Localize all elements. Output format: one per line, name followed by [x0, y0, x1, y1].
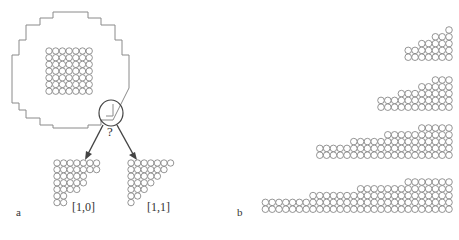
atom-circle	[148, 160, 154, 166]
atom-circle	[391, 186, 398, 193]
atom-circle	[419, 132, 426, 139]
atom-circle	[398, 97, 405, 104]
atom-circle	[371, 199, 378, 206]
atom-circle	[289, 199, 296, 206]
atom-circle	[337, 145, 344, 152]
atom-circle	[432, 152, 439, 159]
atom-circle	[46, 81, 52, 87]
atom-circle	[86, 68, 92, 74]
atom-circle	[323, 199, 330, 206]
atom-circle	[412, 192, 419, 199]
atom-circle	[364, 186, 371, 193]
atom-circle	[412, 152, 419, 159]
atom-circle	[439, 90, 446, 97]
atom-circle	[412, 186, 419, 193]
atom-circle	[398, 138, 405, 145]
atom-circle	[446, 138, 453, 145]
atom-circle	[419, 40, 426, 47]
atom-circle	[330, 145, 337, 152]
step-option-1-0	[54, 160, 100, 206]
atom-circle	[371, 145, 378, 152]
atom-circle	[364, 192, 371, 199]
atom-circle	[79, 81, 85, 87]
atom-circle	[86, 75, 92, 81]
atom-circle	[269, 206, 276, 213]
atom-circle	[54, 166, 60, 172]
atom-circle	[398, 145, 405, 152]
atom-circle	[53, 81, 59, 87]
atom-circle	[391, 97, 398, 104]
magnifier-circle	[99, 100, 123, 126]
atom-circle	[385, 152, 392, 159]
atom-circle	[391, 138, 398, 145]
atom-circle	[364, 138, 371, 145]
atom-circle	[54, 186, 60, 192]
atom-circle	[378, 199, 385, 206]
atom-circle	[54, 180, 60, 186]
atom-circle	[79, 88, 85, 94]
atom-circle	[86, 61, 92, 67]
atom-circle	[74, 186, 80, 192]
atom-circle	[46, 88, 52, 94]
atom-circle	[351, 145, 358, 152]
atom-circle	[439, 145, 446, 152]
atom-circle	[439, 206, 446, 213]
atom-circle	[154, 160, 160, 166]
atom-circle	[432, 192, 439, 199]
atom-circle	[54, 173, 60, 179]
atom-circle	[167, 160, 173, 166]
atom-circle	[405, 54, 412, 61]
atom-circle	[128, 160, 134, 166]
atom-circle	[446, 40, 453, 47]
staircase-1	[405, 27, 452, 61]
atom-circle	[439, 125, 446, 132]
atom-circle	[391, 104, 398, 111]
atom-circle	[60, 173, 66, 179]
atom-circle	[385, 206, 392, 213]
atom-circle	[425, 206, 432, 213]
atom-circle	[60, 160, 66, 166]
atom-circle	[419, 192, 426, 199]
atom-circle	[405, 97, 412, 104]
atom-circle	[446, 47, 453, 54]
atom-circle	[446, 206, 453, 213]
atom-circle	[412, 138, 419, 145]
atom-circle	[351, 138, 358, 145]
atom-circle	[432, 186, 439, 193]
atom-circle	[391, 206, 398, 213]
atom-circle	[405, 192, 412, 199]
atom-circle	[425, 192, 432, 199]
atom-circle	[46, 61, 52, 67]
atom-circle	[330, 206, 337, 213]
atom-circle	[53, 55, 59, 61]
atom-circle	[425, 125, 432, 132]
atom-circle	[148, 180, 154, 186]
atom-circle	[303, 199, 310, 206]
atom-circle	[378, 186, 385, 193]
atom-circle	[289, 206, 296, 213]
atom-circle	[412, 132, 419, 139]
atom-circle	[439, 47, 446, 54]
option-label-1-1: [1,1]	[147, 200, 170, 215]
atom-circle	[87, 160, 93, 166]
panel-b-label: b	[237, 206, 243, 218]
atom-circle	[405, 186, 412, 193]
atom-circle	[357, 138, 364, 145]
atom-circle	[54, 193, 60, 199]
atom-circle	[80, 173, 86, 179]
atom-circle	[344, 145, 351, 152]
atom-circle	[432, 84, 439, 91]
atom-circle	[67, 160, 73, 166]
atom-circle	[357, 145, 364, 152]
atom-circle	[86, 55, 92, 61]
atom-circle	[67, 180, 73, 186]
atom-circle	[79, 75, 85, 81]
atom-circle	[412, 199, 419, 206]
atom-circle	[357, 186, 364, 193]
atom-circle	[446, 54, 453, 61]
atom-circle	[405, 199, 412, 206]
atom-circle	[80, 160, 86, 166]
atom-circle	[46, 75, 52, 81]
arrow-left	[88, 125, 103, 154]
atom-circle	[398, 104, 405, 111]
